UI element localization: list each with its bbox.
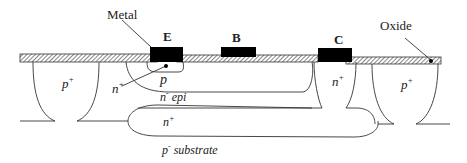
collector-n-plus-label: n+ [332,73,344,89]
p-substrate-label: p- substrate [161,142,218,157]
right-p-plus-label: p+ [400,76,413,92]
left-p-plus-label: p+ [61,75,74,91]
n-epi-label: n- epi [160,89,186,104]
base-label: B [232,30,241,45]
emitter-label: E [163,29,172,44]
bjt-cross-section-diagram: Metal Oxide E B C p+ p+ n+ n+ p n- epi n… [0,0,467,163]
p-base-region [126,62,313,92]
metal-leader-line [122,20,151,47]
emitter-metal-contact [150,47,183,62]
metal-label: Metal [107,7,138,22]
emitter-n-plus-label: n+ [112,80,124,96]
oxide-pointer-dot [429,59,433,63]
emitter-pointer-dot [164,64,168,68]
collector-metal-contact [318,48,352,62]
base-metal-contact [221,47,256,57]
buried-n-plus-label: n+ [163,114,174,129]
right-p-plus-well [372,64,450,124]
oxide-label: Oxide [380,18,412,33]
collector-label: C [334,32,343,47]
p-base-label: p [159,72,167,87]
